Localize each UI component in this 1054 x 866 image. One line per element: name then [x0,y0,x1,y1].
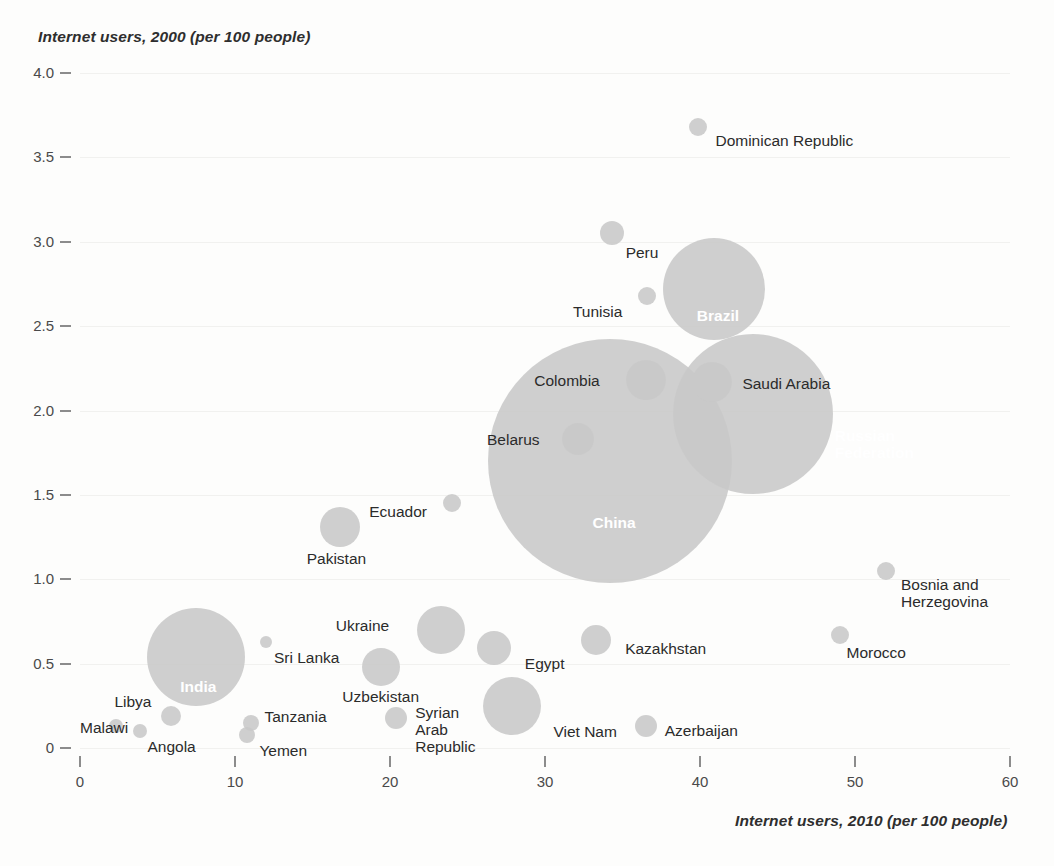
bubble-label-line: Russian [835,427,895,444]
label-yemen: Yemen [259,742,307,759]
bubble-label-line: Pakistan [307,550,366,567]
gridline [80,579,1010,580]
label-bosnia-and-herzegovina: Bosnia andHerzegovina [901,576,988,610]
bubble-label-line: Malawi [80,719,128,736]
x-tick-label: 50 [835,773,875,790]
label-uzbekistan: Uzbekistan [80,688,681,705]
plot-area: Dominican RepublicPeruBrazilTunisiaSaudi… [80,73,1010,748]
y-tick-label: 2.0 [12,402,54,419]
x-tick-mark [389,756,391,767]
bubble-label-line: Belarus [487,431,540,448]
gridline [80,242,1010,243]
x-axis-title: Internet users, 2010 (per 100 people) [735,812,1007,830]
bubble-brazil[interactable] [663,238,765,340]
bubble-uzbekistan[interactable] [362,648,400,686]
label-tanzania: Tanzania [265,708,327,725]
bubble-russian-federation[interactable] [673,334,833,494]
label-belarus: Belarus [80,431,540,448]
label-libya: Libya [80,693,151,710]
bubble-label-line: Angola [147,738,195,755]
bubble-label-line: Kazakhstan [625,640,706,657]
x-tick-label: 10 [215,773,255,790]
x-tick-label: 0 [60,773,100,790]
bubble-colombia[interactable] [626,360,666,400]
bubble-label-line: Tanzania [265,708,327,725]
bubble-yemen[interactable] [239,727,255,743]
bubble-label-line: Colombia [534,372,599,389]
bubble-kazakhstan[interactable] [581,625,611,655]
x-tick-mark [544,756,546,767]
label-kazakhstan: Kazakhstan [625,640,706,657]
x-tick-label: 60 [990,773,1030,790]
y-tick-mark [60,747,71,749]
y-axis-title: Internet users, 2000 (per 100 people) [38,28,310,46]
bubble-chart: Internet users, 2000 (per 100 people) In… [0,0,1054,866]
bubble-libya[interactable] [161,706,181,726]
bubble-label-line: Bosnia and [901,576,979,593]
label-pakistan: Pakistan [80,550,593,567]
bubble-label-line: Federation [835,444,914,461]
label-malawi: Malawi [80,719,97,736]
y-tick-label: 4.0 [12,64,54,81]
bubble-syrian-arab-republic[interactable] [385,707,407,729]
bubble-label-line: Tunisia [573,303,622,320]
label-angola: Angola [147,738,195,755]
x-tick-mark [1009,756,1011,767]
y-tick-mark [60,494,71,496]
bubble-label-line: Saudi Arabia [742,375,830,392]
y-tick-label: 1.5 [12,486,54,503]
label-russian-federation: RussianFederation [835,427,914,461]
y-tick-label: 3.0 [12,233,54,250]
label-saudi-arabia: Saudi Arabia [742,375,830,392]
bubble-bosnia-and-herzegovina[interactable] [877,562,895,580]
bubble-ecuador[interactable] [443,494,461,512]
bubble-label-line: Ukraine [336,617,389,634]
y-tick-mark [60,72,71,74]
bubble-label-line: Morocco [847,644,906,661]
label-morocco: Morocco [847,644,906,661]
bubble-saudi-arabia[interactable] [692,362,732,402]
bubble-label-line: Syrian [415,704,459,721]
bubble-viet-nam[interactable] [483,677,541,735]
y-tick-label: 0.5 [12,655,54,672]
bubble-label-line: Yemen [259,742,307,759]
bubble-label-line: Libya [114,693,151,710]
bubble-ukraine[interactable] [417,606,465,654]
bubble-belarus[interactable] [562,423,594,455]
y-tick-mark [60,663,71,665]
bubble-dominican-republic[interactable] [689,118,707,136]
label-egypt: Egypt [525,655,565,672]
y-tick-mark [60,578,71,580]
bubble-sri-lanka[interactable] [260,636,272,648]
bubble-label-line: Sri Lanka [274,649,339,666]
bubble-label-line: Dominican Republic [715,132,853,149]
y-tick-label: 2.5 [12,317,54,334]
bubble-egypt[interactable] [477,631,511,665]
bubble-label-line: Azerbaijan [665,722,738,739]
bubble-angola[interactable] [133,724,147,738]
x-tick-label: 20 [370,773,410,790]
label-ecuador: Ecuador [80,503,427,520]
gridline [80,748,1010,749]
y-tick-mark [60,410,71,412]
bubble-label-line: Republic [415,738,475,755]
bubble-label-line: Viet Nam [553,723,616,740]
bubble-peru[interactable] [600,221,624,245]
gridline [80,326,1010,327]
bubble-label-line: China [593,514,636,531]
y-tick-mark [60,241,71,243]
label-dominican-republic: Dominican Republic [715,132,853,149]
label-tunisia: Tunisia [80,303,622,320]
bubble-morocco[interactable] [831,626,849,644]
bubble-azerbaijan[interactable] [635,715,657,737]
bubble-label-line: Egypt [525,655,565,672]
y-tick-mark [60,325,71,327]
label-peru: Peru [626,244,659,261]
bubble-tunisia[interactable] [638,287,656,305]
gridline [80,73,1010,74]
label-syrian-arab-republic: SyrianArabRepublic [415,704,475,755]
y-tick-label: 0 [12,739,54,756]
bubble-label-line: Brazil [697,307,739,324]
x-tick-mark [854,756,856,767]
bubble-label-line: Ecuador [369,503,427,520]
